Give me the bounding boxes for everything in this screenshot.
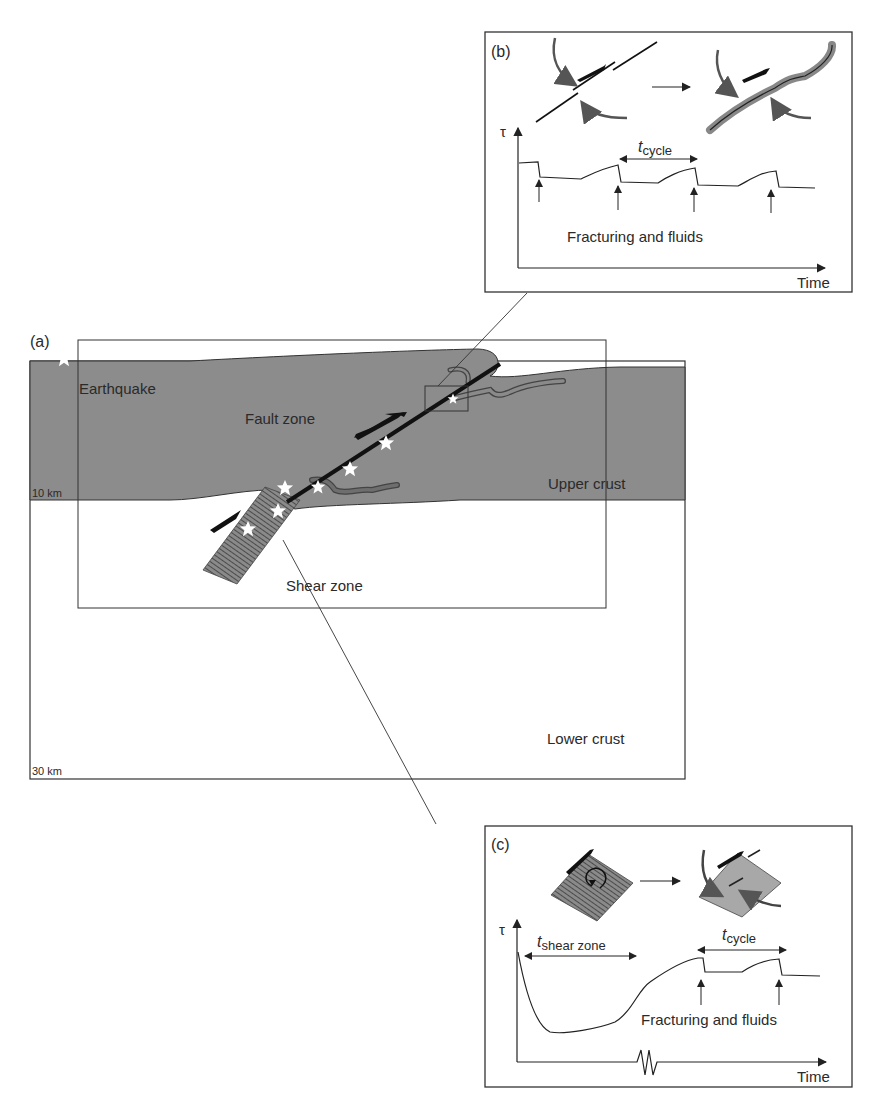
panel-a: (a) (30, 333, 685, 779)
b-x-axis-label: Time (797, 274, 830, 291)
panel-b-label: (b) (491, 43, 511, 60)
legend-earthquake: Earthquake (79, 380, 156, 397)
panel-c: (c) τ Time tshear zone (485, 826, 852, 1087)
depth-10km-label: 10 km (32, 487, 62, 499)
c-y-axis-label: τ (499, 921, 505, 938)
upper-crust-label: Upper crust (548, 475, 626, 492)
lower-crust-label: Lower crust (547, 730, 625, 747)
panel-b: (b) τ Time tcycle (485, 32, 852, 292)
panel-c-label: (c) (491, 836, 510, 853)
panel-b-frame (485, 32, 852, 292)
b-y-axis-label: τ (500, 123, 506, 140)
figure-canvas: (a) (0, 0, 887, 1111)
shear-zone-block (203, 487, 300, 584)
panel-a-label: (a) (30, 333, 50, 350)
depth-30km-label: 30 km (32, 765, 62, 777)
c-x-axis-label: Time (797, 1068, 830, 1085)
b-annotation: Fracturing and fluids (567, 228, 703, 245)
fault-zone-label: Fault zone (245, 410, 315, 427)
shear-zone-label: Shear zone (286, 577, 363, 594)
c-annotation: Fracturing and fluids (641, 1011, 777, 1028)
